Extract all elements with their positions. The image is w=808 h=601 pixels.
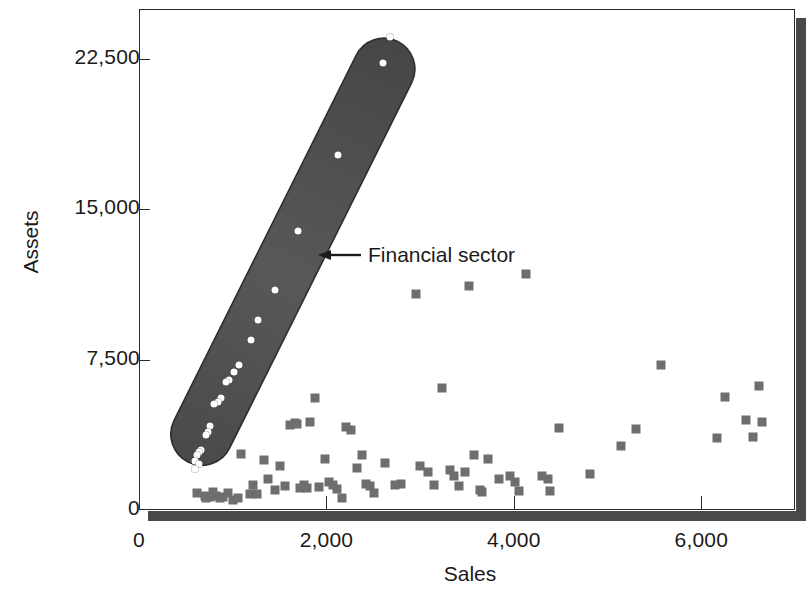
data-point xyxy=(469,450,478,459)
frame-shadow-right xyxy=(796,18,806,519)
data-point xyxy=(522,269,531,278)
data-point xyxy=(353,463,362,472)
x-tick-label: 2,000 xyxy=(300,528,354,552)
x-tick-mark xyxy=(701,496,702,510)
data-point xyxy=(720,392,729,401)
data-point xyxy=(437,383,446,392)
annotation-label: Financial sector xyxy=(368,243,515,267)
data-point xyxy=(230,368,237,375)
arrow-left-icon xyxy=(316,247,362,263)
data-point xyxy=(543,474,552,483)
scatter-plot-figure: 07,50015,00022,500 02,0004,0006,000 Asse… xyxy=(0,0,808,601)
data-point xyxy=(461,467,470,476)
x-tick-mark xyxy=(514,496,515,510)
data-point xyxy=(192,465,199,472)
data-point xyxy=(477,487,486,496)
y-tick-mark xyxy=(139,360,150,361)
data-point xyxy=(742,415,751,424)
financial-sector-annotation: Financial sector xyxy=(316,240,515,270)
data-point xyxy=(430,480,439,489)
data-point xyxy=(454,481,463,490)
data-point xyxy=(247,336,254,343)
data-point xyxy=(755,381,764,390)
data-point xyxy=(295,228,302,235)
data-point xyxy=(259,455,268,464)
data-point xyxy=(234,493,243,502)
data-point xyxy=(270,485,279,494)
data-point xyxy=(370,488,379,497)
data-point xyxy=(748,432,757,441)
data-point xyxy=(412,289,421,298)
data-point xyxy=(346,425,355,434)
data-point xyxy=(510,477,519,486)
data-point xyxy=(631,424,640,433)
y-tick-label: 7,500 xyxy=(86,346,140,370)
data-point xyxy=(334,152,341,159)
data-point xyxy=(554,423,563,432)
data-point xyxy=(255,316,262,323)
x-tick-label: 0 xyxy=(133,528,145,552)
data-point xyxy=(358,450,367,459)
y-tick-mark xyxy=(139,59,150,60)
data-point xyxy=(314,482,323,491)
data-point xyxy=(379,60,386,67)
data-point xyxy=(387,34,394,41)
data-point xyxy=(464,281,473,290)
data-point xyxy=(275,461,284,470)
frame-shadow-bottom xyxy=(148,511,806,521)
x-tick-mark xyxy=(326,496,327,510)
data-point xyxy=(281,481,290,490)
data-point xyxy=(494,474,503,483)
data-point xyxy=(483,454,492,463)
data-point xyxy=(656,360,665,369)
data-point xyxy=(585,469,594,478)
data-point xyxy=(311,393,320,402)
data-point xyxy=(210,400,217,407)
data-point xyxy=(236,361,243,368)
data-point xyxy=(306,417,315,426)
x-tick-label: 6,000 xyxy=(675,528,729,552)
data-point xyxy=(449,471,458,480)
data-point xyxy=(546,486,555,495)
data-point xyxy=(397,479,406,488)
data-point xyxy=(321,454,330,463)
data-point xyxy=(203,431,210,438)
y-axis-title: Assets xyxy=(19,187,43,297)
data-point xyxy=(713,433,722,442)
y-tick-label: 22,500 xyxy=(75,45,140,69)
data-point xyxy=(423,467,432,476)
data-point xyxy=(758,417,767,426)
data-point xyxy=(515,486,524,495)
x-tick-label: 4,000 xyxy=(487,528,541,552)
data-point xyxy=(293,420,302,429)
data-point xyxy=(380,458,389,467)
data-point xyxy=(264,474,273,483)
data-point xyxy=(253,490,262,499)
y-tick-mark xyxy=(139,209,150,210)
data-point xyxy=(223,378,230,385)
data-point xyxy=(271,286,278,293)
data-point xyxy=(338,493,347,502)
data-point xyxy=(249,480,258,489)
data-point xyxy=(616,441,625,450)
data-point xyxy=(237,449,246,458)
x-axis-title: Sales xyxy=(420,562,520,586)
y-tick-label: 0 xyxy=(128,496,140,520)
data-point xyxy=(302,483,311,492)
y-tick-label: 15,000 xyxy=(75,195,140,219)
